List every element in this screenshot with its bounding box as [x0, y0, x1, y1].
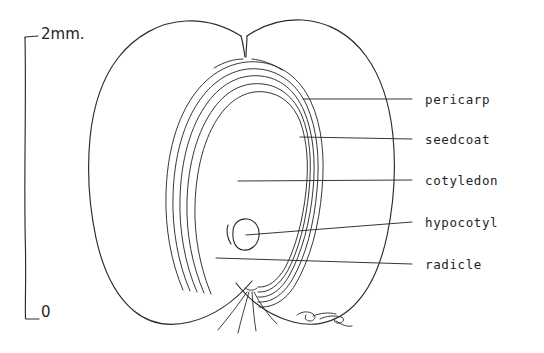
radicle-convergence-point: [245, 288, 257, 290]
seed-coat-layer-4: [187, 84, 310, 293]
hypocotyl-hook: [227, 225, 231, 244]
radicle-tail-2: [238, 292, 249, 333]
seed-anatomy-figure: 2mm. 0 pericarp seedcoat cotyledon hypoc…: [0, 0, 544, 353]
label-seedcoat: seedcoat: [425, 134, 490, 147]
label-pericarp: pericarp: [425, 94, 490, 107]
leader-line-radicle: [216, 258, 412, 264]
scale-bar-bottom-label: 0: [41, 305, 51, 320]
leader-line-seedcoat: [300, 137, 412, 139]
scale-bar-tick-bottom: [26, 318, 40, 319]
pericarp-right-lobe: [236, 20, 394, 324]
notch-v-crease: [241, 36, 245, 57]
pericarp-left-lobe: [89, 21, 252, 324]
scale-bar-line: [25, 38, 26, 318]
label-hypocotyl: hypocotyl: [425, 217, 498, 230]
scale-bar-top-label: 2mm.: [41, 27, 85, 42]
seed-coat-layers: [166, 62, 323, 307]
seed-coat-layer-5: [195, 92, 307, 294]
pericarp-left-outline: [89, 21, 252, 324]
radicle-tail-1: [218, 292, 247, 330]
signature-stroke-1: [297, 312, 315, 321]
label-radicle: radicle: [425, 259, 482, 272]
radicle-tail-3: [252, 292, 256, 331]
radicle-tails: [218, 288, 277, 333]
leader-line-cotyledon: [238, 180, 412, 181]
signature-stroke-3: [320, 316, 344, 323]
scale-bar: [25, 36, 39, 319]
pericarp-right-outline: [236, 20, 394, 324]
notch-v-crease-right: [246, 36, 247, 57]
label-cotyledon: cotyledon: [425, 175, 498, 188]
scale-bar-tick-top: [25, 36, 38, 38]
